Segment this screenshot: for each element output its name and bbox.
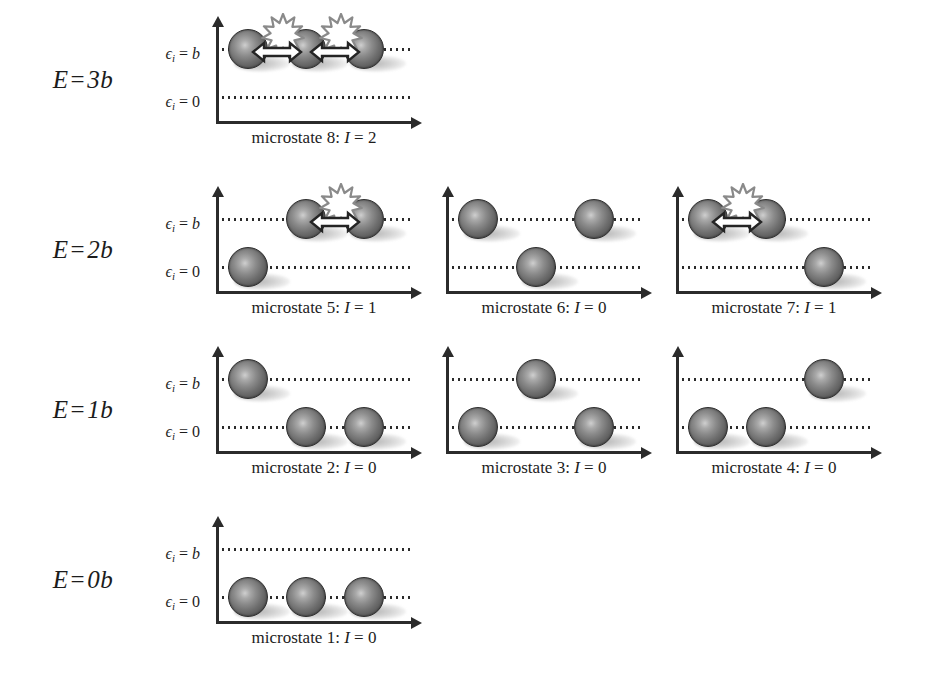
energy-row-E0b: E=0bϵi = bϵi = 0microstate 1: I = 0 bbox=[0, 520, 935, 670]
axis-tick-labels: ϵi = bϵi = 0 bbox=[130, 20, 200, 140]
microstate-plot bbox=[430, 350, 658, 460]
microstate-panel-2: microstate 2: I = 0 bbox=[200, 350, 428, 490]
double-arrow-icon bbox=[711, 210, 763, 234]
energy-level-label: E=0b bbox=[18, 566, 148, 594]
particle-2 bbox=[286, 407, 326, 447]
particle-2 bbox=[746, 407, 786, 447]
particle-2 bbox=[516, 359, 556, 399]
microstate-panel-8: microstate 8: I = 2 bbox=[200, 20, 428, 160]
microstate-plot bbox=[200, 20, 428, 130]
microstate-caption: microstate 5: I = 1 bbox=[200, 298, 428, 318]
particle-1 bbox=[228, 577, 268, 617]
microstate-panel-6: microstate 6: I = 0 bbox=[430, 190, 658, 330]
axis-tick-labels: ϵi = bϵi = 0 bbox=[130, 190, 200, 310]
energy-level-line-b bbox=[214, 548, 412, 551]
microstate-panel-5: microstate 5: I = 1 bbox=[200, 190, 428, 330]
microstate-caption: microstate 8: I = 2 bbox=[200, 128, 428, 148]
microstate-caption: microstate 3: I = 0 bbox=[430, 458, 658, 478]
microstate-plot bbox=[200, 520, 428, 630]
energy-axis-horizontal bbox=[676, 291, 872, 294]
tick-label-low: ϵi = 0 bbox=[165, 263, 200, 282]
energy-axis-vertical bbox=[446, 196, 449, 294]
tick-label-high: ϵi = b bbox=[165, 375, 200, 394]
particle-1 bbox=[458, 407, 498, 447]
microstate-plot bbox=[430, 190, 658, 300]
energy-axis-horizontal bbox=[446, 451, 642, 454]
particle-3 bbox=[574, 407, 614, 447]
microstate-plot bbox=[660, 350, 888, 460]
particle-1 bbox=[228, 359, 268, 399]
energy-row-E2b: E=2bϵi = bϵi = 0microstate 5: I = 1micro… bbox=[0, 190, 935, 340]
energy-axis-horizontal bbox=[216, 451, 412, 454]
tick-label-low: ϵi = 0 bbox=[165, 93, 200, 112]
energy-level-label: E=2b bbox=[18, 236, 148, 264]
energy-axis-vertical bbox=[216, 526, 219, 624]
energy-level-label: E=3b bbox=[18, 66, 148, 94]
energy-axis-horizontal bbox=[216, 121, 412, 124]
energy-axis-vertical bbox=[216, 26, 219, 124]
particle-1 bbox=[458, 199, 498, 239]
microstate-caption: microstate 4: I = 0 bbox=[660, 458, 888, 478]
microstate-plot bbox=[200, 190, 428, 300]
microstate-caption: microstate 7: I = 1 bbox=[660, 298, 888, 318]
double-arrow-icon bbox=[309, 210, 361, 234]
particle-1 bbox=[688, 407, 728, 447]
energy-axis-vertical bbox=[446, 356, 449, 454]
energy-axis-horizontal bbox=[216, 291, 412, 294]
microstate-plot bbox=[660, 190, 888, 300]
energy-axis-horizontal bbox=[676, 451, 872, 454]
double-arrow-icon bbox=[251, 40, 303, 64]
energy-level-line-0 bbox=[214, 96, 412, 99]
tick-label-high: ϵi = b bbox=[165, 215, 200, 234]
microstate-plot bbox=[200, 350, 428, 460]
particle-3 bbox=[344, 577, 384, 617]
microstate-diagram: E=3bϵi = bϵi = 0microstate 8: I = 2E=2bϵ… bbox=[0, 0, 935, 691]
double-arrow-icon bbox=[309, 40, 361, 64]
axis-tick-labels: ϵi = bϵi = 0 bbox=[130, 350, 200, 470]
particle-3 bbox=[344, 407, 384, 447]
particle-3 bbox=[804, 247, 844, 287]
particle-1 bbox=[228, 247, 268, 287]
tick-label-low: ϵi = 0 bbox=[165, 593, 200, 612]
energy-axis-vertical bbox=[676, 196, 679, 294]
microstate-panel-4: microstate 4: I = 0 bbox=[660, 350, 888, 490]
particle-3 bbox=[574, 199, 614, 239]
energy-row-E1b: E=1bϵi = bϵi = 0microstate 2: I = 0micro… bbox=[0, 350, 935, 500]
energy-axis-horizontal bbox=[216, 621, 412, 624]
energy-row-E3b: E=3bϵi = bϵi = 0microstate 8: I = 2 bbox=[0, 20, 935, 170]
microstate-caption: microstate 1: I = 0 bbox=[200, 628, 428, 648]
microstate-caption: microstate 2: I = 0 bbox=[200, 458, 428, 478]
particle-3 bbox=[804, 359, 844, 399]
axis-tick-labels: ϵi = bϵi = 0 bbox=[130, 520, 200, 640]
tick-label-low: ϵi = 0 bbox=[165, 423, 200, 442]
energy-axis-vertical bbox=[216, 356, 219, 454]
tick-label-high: ϵi = b bbox=[165, 545, 200, 564]
microstate-panel-7: microstate 7: I = 1 bbox=[660, 190, 888, 330]
microstate-panel-3: microstate 3: I = 0 bbox=[430, 350, 658, 490]
particle-2 bbox=[286, 577, 326, 617]
energy-axis-vertical bbox=[216, 196, 219, 294]
microstate-panel-1: microstate 1: I = 0 bbox=[200, 520, 428, 660]
particle-2 bbox=[516, 247, 556, 287]
microstate-caption: microstate 6: I = 0 bbox=[430, 298, 658, 318]
energy-axis-horizontal bbox=[446, 291, 642, 294]
energy-axis-vertical bbox=[676, 356, 679, 454]
tick-label-high: ϵi = b bbox=[165, 45, 200, 64]
energy-level-label: E=1b bbox=[18, 396, 148, 424]
